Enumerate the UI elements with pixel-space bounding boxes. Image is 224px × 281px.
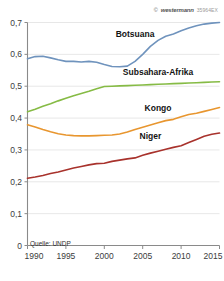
x-tick-label: 1995 [56,251,75,261]
figure-code: 35964EX [197,7,218,13]
x-tick-label: 1990 [25,251,44,261]
x-tick-label: 2010 [172,251,191,261]
series-line-niger [28,133,220,178]
y-tick-label: 0,2 [10,177,22,187]
y-axis-tick-labels: 00,10,20,30,40,50,60,7 [10,18,22,251]
publisher-name: westermann [161,7,194,13]
chart-canvas: 00,10,20,30,40,50,60,7 19901995200020052… [0,0,224,281]
axes-group [25,23,220,250]
series-label-niger: Niger [140,131,162,141]
series-label-botsuana: Botsuana [116,29,155,39]
source-note: Quelle: UNDP [30,240,71,248]
y-tick-label: 0,4 [10,113,22,123]
x-tick-label: 2000 [95,251,114,261]
y-tick-label: 0,3 [10,145,22,155]
series-label-kongo: Kongo [145,103,172,113]
publisher-credit: © westermann 35964EX [154,7,218,13]
x-tick-label: 2005 [133,251,152,261]
series-line-kongo [28,108,220,136]
y-tick-label: 0,1 [10,209,22,219]
series-label-subsahara-afrika: Subsahara-Afrika [123,67,194,77]
hdi-line-chart: © westermann 35964EX 00,10,20,30,40,50,6… [0,0,224,281]
copyright-icon: © [154,7,158,13]
y-tick-label: 0,6 [10,49,22,59]
y-tick-label: 0,5 [10,81,22,91]
gridlines-group [28,23,220,214]
x-axis-tick-labels: 199019952000200520102015 [25,251,223,261]
x-tick-label: 2015 [204,251,223,261]
series-lines-group [28,23,220,179]
y-tick-label: 0 [17,241,22,251]
y-tick-label: 0,7 [10,18,22,28]
